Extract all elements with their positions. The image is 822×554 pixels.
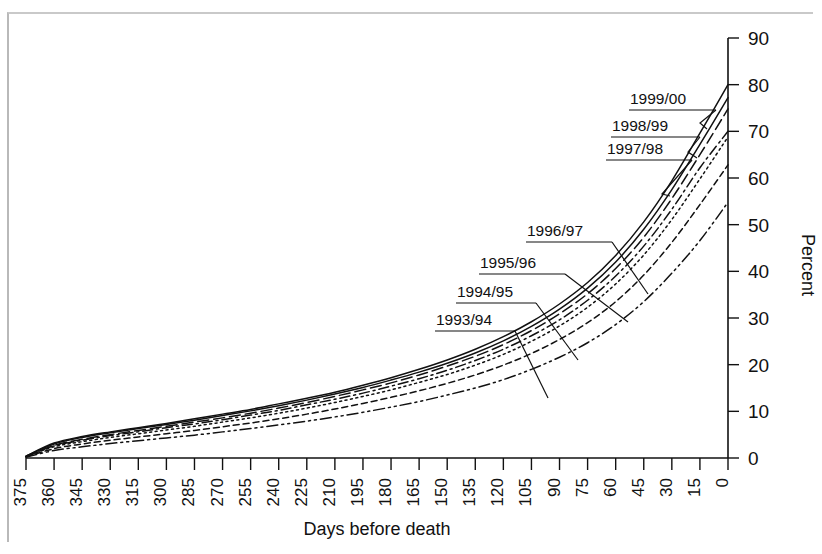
x-axis-tick-label: 255 [236,478,255,506]
x-axis-tick-label: 75 [573,478,592,497]
callout-label: 1999/00 [630,90,686,107]
x-axis-title: Days before death [303,519,450,539]
y-axis-tick-label: 30 [748,308,769,329]
x-axis-tick-label: 270 [208,478,227,506]
x-axis-tick-label: 15 [685,478,704,497]
callout-label: 1997/98 [607,140,663,157]
series-line-1996-97 [26,131,728,456]
x-axis-tick-labels: 3753603453303153002852702552402252101951… [11,478,732,506]
x-axis-tick-label: 0 [713,478,732,487]
y-axis-tick-label: 10 [748,401,769,422]
y-axis-ticks [728,38,739,458]
x-axis-tick-label: 375 [11,478,30,506]
x-axis-tick-label: 330 [95,478,114,506]
x-axis-tick-label: 90 [545,478,564,497]
x-axis-tick-label: 60 [601,478,620,497]
callout-label: 1993/94 [436,311,492,328]
x-axis-tick-label: 135 [460,478,479,506]
x-axis-tick-label: 360 [39,478,58,506]
series-line-1995-96 [26,137,728,457]
x-axis-tick-label: 195 [348,478,367,506]
x-axis-tick-label: 105 [516,478,535,506]
y-axis-tick-label: 90 [748,28,769,49]
y-axis-tick-label: 50 [748,215,769,236]
x-axis-tick-label: 285 [179,478,198,506]
callout-label: 1995/96 [480,254,536,271]
callout-label: 1996/97 [527,222,583,239]
callout-1993-94: 1993/94 [435,311,548,398]
figure-page: 0102030405060708090 37536034533031530028… [0,0,822,554]
y-axis-tick-labels: 0102030405060708090 [748,28,769,469]
callout-leader-line [612,242,648,294]
y-axis-tick-label: 80 [748,75,769,96]
y-axis-tick-label: 0 [748,448,759,469]
x-axis-tick-label: 225 [292,478,311,506]
x-axis-tick-label: 210 [320,478,339,506]
x-axis-tick-label: 240 [264,478,283,506]
x-axis-tick-label: 315 [123,478,142,506]
callout-label: 1998/99 [612,117,668,134]
y-axis-tick-label: 60 [748,168,769,189]
x-axis-tick-label: 30 [657,478,676,497]
x-axis-tick-label: 45 [629,478,648,497]
y-axis-tick-label: 70 [748,121,769,142]
series-line-1993-94 [26,202,728,457]
x-axis-tick-label: 150 [432,478,451,506]
y-axis-tick-label: 40 [748,261,769,282]
x-axis-tick-label: 300 [151,478,170,506]
callout-label: 1994/95 [457,283,513,300]
x-axis-tick-label: 120 [488,478,507,506]
x-axis-tick-label: 165 [404,478,423,506]
series-line-1994-95 [26,165,728,457]
series-line-1997-98 [26,109,728,457]
x-axis-tick-label: 180 [376,478,395,506]
x-axis-ticks [26,458,728,470]
x-axis-tick-label: 345 [67,478,86,506]
y-axis-title: Percent [798,234,818,296]
y-axis-tick-label: 20 [748,355,769,376]
line-chart: 0102030405060708090 37536034533031530028… [0,0,822,554]
callout-leader-line [515,331,548,398]
